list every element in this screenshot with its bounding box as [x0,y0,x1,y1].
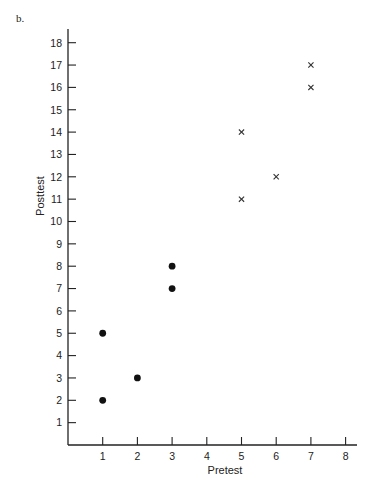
y-axis-ticks: 123456789101112131415161718 [50,37,76,429]
dot-marker [169,263,176,270]
axes [68,29,357,445]
y-tick-label: 12 [50,171,62,183]
cross-marker [308,85,313,90]
x-tick-label: 5 [239,450,245,462]
y-tick-label: 10 [50,215,62,227]
dot-marker [169,285,176,292]
x-tick-label: 8 [343,450,349,462]
y-tick-label: 15 [50,104,62,116]
y-tick-label: 14 [50,126,62,138]
x-tick-label: 1 [100,450,106,462]
x-axis-ticks: 12345678 [100,437,349,462]
y-tick-label: 17 [50,59,62,71]
y-tick-label: 2 [56,394,62,406]
y-tick-label: 9 [56,238,62,250]
y-tick-label: 8 [56,260,62,272]
dot-marker [99,397,106,404]
y-axis-title: Posttest [34,176,46,216]
x-axis-title: Pretest [208,464,243,476]
cross-marker [239,197,244,202]
scatter-chart: 123456789101112131415161718 12345678 Pre… [0,0,375,498]
x-tick-label: 4 [204,450,210,462]
y-tick-label: 3 [56,372,62,384]
cross-marker [274,174,279,179]
dot-marker [134,375,141,382]
cross-marker [308,62,313,67]
x-tick-label: 7 [308,450,314,462]
x-tick-label: 6 [273,450,279,462]
x-tick-label: 2 [134,450,140,462]
x-tick-label: 3 [169,450,175,462]
y-tick-label: 13 [50,148,62,160]
data-points [99,62,313,403]
cross-marker [239,130,244,135]
y-tick-label: 6 [56,305,62,317]
dot-marker [99,330,106,337]
y-tick-label: 1 [56,416,62,428]
y-tick-label: 11 [51,193,62,205]
y-tick-label: 4 [56,349,62,361]
y-tick-label: 18 [50,37,62,49]
y-tick-label: 5 [56,327,62,339]
y-tick-label: 7 [56,282,62,294]
y-tick-label: 16 [50,81,62,93]
